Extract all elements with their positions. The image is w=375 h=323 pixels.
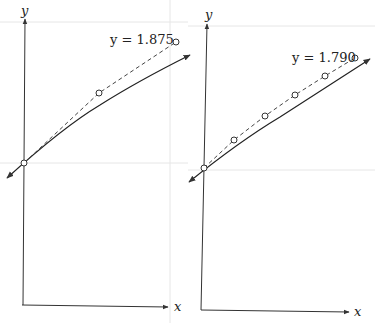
euler-point bbox=[21, 160, 27, 166]
solution-curve bbox=[7, 55, 190, 178]
euler-point bbox=[322, 73, 328, 79]
euler-point bbox=[262, 113, 268, 119]
euler-point bbox=[231, 137, 237, 143]
y-axis-label: y bbox=[20, 3, 29, 18]
euler-approximation-line bbox=[24, 42, 176, 163]
euler-method-diagram: yxy = 1.875 yxy = 1.790 bbox=[0, 0, 375, 323]
left-panel: yxy = 1.875 bbox=[0, 0, 190, 323]
euler-point bbox=[96, 90, 102, 96]
approximation-label: y = 1.875 bbox=[109, 32, 174, 47]
x-axis bbox=[201, 310, 349, 312]
euler-approximation-line bbox=[204, 58, 355, 168]
x-axis-label: x bbox=[354, 304, 362, 319]
y-axis-label: y bbox=[204, 7, 213, 22]
solution-curve bbox=[189, 59, 370, 182]
approximation-label: y = 1.790 bbox=[291, 50, 356, 65]
x-axis bbox=[22, 305, 168, 307]
euler-point bbox=[292, 92, 298, 98]
x-axis-label: x bbox=[174, 299, 182, 314]
euler-point bbox=[201, 165, 207, 171]
right-panel: yxy = 1.790 bbox=[188, 7, 375, 319]
euler-point bbox=[173, 39, 179, 45]
